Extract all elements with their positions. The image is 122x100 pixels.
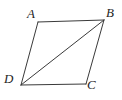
vertex-label-d: D — [4, 72, 13, 85]
edge-DA — [21, 22, 38, 85]
edge-CD — [21, 84, 86, 85]
parallelogram-diagonals — [21, 20, 104, 85]
diagonal-DB — [21, 20, 104, 85]
edge-AB — [38, 20, 104, 22]
geometry-figure: A B C D — [0, 0, 122, 100]
vertex-label-c: C — [87, 78, 96, 91]
parallelogram-svg — [0, 0, 122, 100]
vertex-label-a: A — [27, 7, 35, 20]
vertex-label-b: B — [106, 6, 114, 19]
edge-BC — [86, 20, 104, 84]
